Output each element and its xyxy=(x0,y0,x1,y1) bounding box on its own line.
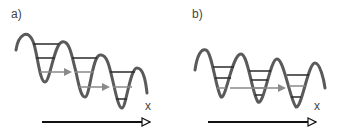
diagram-canvas xyxy=(0,0,339,131)
panel-a-potential-curve xyxy=(16,34,147,108)
panel-a-diagram xyxy=(16,34,150,122)
panel-b-potential-curve xyxy=(195,50,325,107)
panel-b-diagram xyxy=(195,50,325,122)
